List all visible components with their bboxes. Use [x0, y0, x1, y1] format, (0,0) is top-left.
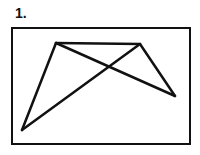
figure-segments	[22, 43, 175, 130]
segment-top_left-top_right	[56, 43, 140, 44]
line-figure-diagram	[0, 0, 200, 155]
